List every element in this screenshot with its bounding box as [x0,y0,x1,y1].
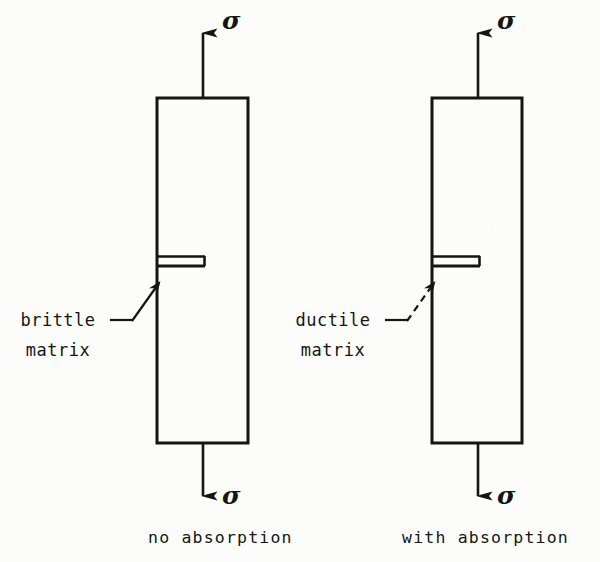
matrix-label-left-line1: brittle [8,305,108,335]
caption-left: no absorption [148,528,293,547]
tensile-specimen-figure: σ σ brittle matrix no absorption σ σ duc… [0,0,600,562]
stress-symbol-top-right: σ [497,6,515,35]
specimen-body-left [157,98,248,443]
diagram-canvas [0,0,600,562]
stress-symbol-top-left: σ [222,6,240,35]
crack-slot-left [157,256,205,266]
matrix-label-right-line2: matrix [283,335,383,365]
caption-right: with absorption [402,528,569,547]
matrix-label-right-line1: ductile [283,305,383,335]
panel-left [110,33,248,496]
panel-right [385,33,522,496]
leader-line-right [385,283,434,321]
leader-line-left [110,283,159,321]
stress-symbol-bottom-right: σ [497,481,515,510]
crack-slot-right [432,256,480,266]
matrix-label-left-line2: matrix [8,335,108,365]
stress-symbol-bottom-left: σ [222,481,240,510]
specimen-body-right [432,98,522,443]
